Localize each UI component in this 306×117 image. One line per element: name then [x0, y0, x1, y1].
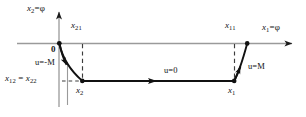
x-axis-label: x1=φ: [262, 23, 280, 32]
label-x11: x11: [225, 21, 236, 30]
label-x2-sub: 2: [80, 89, 83, 96]
label-u-minus-M: u=-M: [35, 58, 55, 67]
label-x21-sub: 21: [75, 24, 82, 31]
x11-dot: [245, 41, 250, 46]
label-x12-sub: 12: [9, 77, 16, 84]
x-axis-label-sub: 1: [266, 26, 269, 33]
label-x12-x22: x12 = x22: [5, 74, 37, 83]
x1-dot: [232, 79, 237, 84]
label-x2: x2: [76, 86, 84, 95]
origin-label: 0: [51, 45, 56, 54]
trajectory-u-plus-M: [234, 44, 247, 81]
y-axis-label-sub: 2: [31, 7, 34, 14]
label-x11-sub: 11: [229, 24, 236, 31]
origin-dot: [57, 41, 62, 46]
marker-dots: [57, 41, 250, 83]
label-x21: x21: [71, 21, 82, 30]
label-equals: =: [16, 73, 26, 83]
label-x1-sub: 1: [232, 89, 235, 96]
x2-dot: [80, 79, 85, 84]
phase-plane-diagram: x2=φ x1=φ 0 x21 x11 u=-M u=0 u=M x12 = x…: [0, 0, 306, 117]
label-u-zero: u=0: [164, 66, 178, 75]
y-axis-label-tail: =φ: [35, 3, 45, 13]
y-axis-label: x2=φ: [27, 4, 45, 13]
trajectory-u-minus-M: [60, 44, 83, 81]
label-x22-sub: 22: [30, 77, 37, 84]
x-axis-label-tail: =φ: [270, 22, 280, 32]
label-u-plus-M: u=M: [248, 62, 265, 71]
label-x1: x1: [228, 86, 236, 95]
